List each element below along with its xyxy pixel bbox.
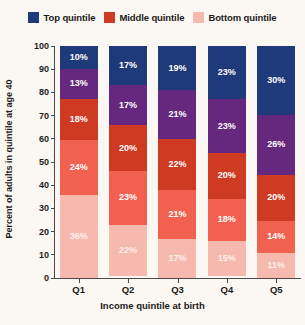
chart-legend: Top quintile Middle quintile Bottom quin… xyxy=(0,12,305,23)
bar-column-q3[interactable]: 19%21%22%21%17% xyxy=(158,46,196,278)
bar-column-q1[interactable]: 10%13%18%24%36% xyxy=(60,46,98,278)
bar-segment[interactable]: 23% xyxy=(208,99,246,152)
y-axis-tick-label: 20 xyxy=(27,227,49,237)
x-axis-tick-label-q2: Q2 xyxy=(109,284,147,295)
bar-column-q5[interactable]: 30%26%20%14%11% xyxy=(257,46,295,278)
x-axis-tick-label-q1: Q1 xyxy=(60,284,98,295)
bar-segment[interactable]: 23% xyxy=(109,171,147,224)
legend-swatch-middle-quintile xyxy=(104,12,115,23)
bar-segment[interactable]: 14% xyxy=(257,221,295,253)
bar-segment[interactable]: 15% xyxy=(208,241,246,276)
x-axis-tick-mark xyxy=(276,279,277,283)
y-axis-tick: 0 xyxy=(27,273,54,283)
y-axis-tick: 50 xyxy=(27,157,54,167)
y-axis-title: Percent of adults in quintile at age 40 xyxy=(2,40,16,278)
legend-label-middle-quintile: Middle quintile xyxy=(119,12,184,23)
bar-segment-label: 20% xyxy=(267,193,285,202)
y-axis-tick: 40 xyxy=(27,180,54,190)
y-axis-tick-label: 30 xyxy=(27,203,49,213)
bar-column-q4[interactable]: 23%23%20%18%15% xyxy=(208,46,246,278)
legend-item-top-quintile: Top quintile xyxy=(28,12,95,23)
bar-segment[interactable]: 18% xyxy=(208,199,246,241)
bar-segment-label: 14% xyxy=(267,232,285,241)
bar-segment[interactable]: 21% xyxy=(158,90,196,139)
chart-figure: Top quintile Middle quintile Bottom quin… xyxy=(0,0,305,325)
x-axis-tick-mark xyxy=(178,279,179,283)
bar-segment-label: 26% xyxy=(267,140,285,149)
bar-segment[interactable]: 22% xyxy=(109,225,147,276)
bar-segment[interactable]: 20% xyxy=(208,153,246,199)
legend-swatch-bottom-quintile xyxy=(193,12,204,23)
bar-segment[interactable]: 30% xyxy=(257,46,295,115)
x-axis-tick-label-q5: Q5 xyxy=(257,284,295,295)
y-axis-tick: 10 xyxy=(27,250,54,260)
x-axis-tick-mark xyxy=(128,279,129,283)
y-axis-tick-label: 40 xyxy=(27,180,49,190)
x-axis-tick-mark xyxy=(227,279,228,283)
bar-segment-label: 23% xyxy=(119,193,137,202)
legend-label-bottom-quintile: Bottom quintile xyxy=(208,12,276,23)
legend-label-top-quintile: Top quintile xyxy=(43,12,95,23)
bar-column-q2[interactable]: 17%17%20%23%22% xyxy=(109,46,147,278)
bar-segment[interactable]: 36% xyxy=(60,195,98,278)
legend-swatch-top-quintile xyxy=(28,12,39,23)
bar-segment-label: 30% xyxy=(267,76,285,85)
x-axis-tick-label-q3: Q3 xyxy=(158,284,196,295)
y-axis-tick-label: 10 xyxy=(27,250,49,260)
bar-segment-label: 10% xyxy=(70,53,88,62)
bar-segment[interactable]: 17% xyxy=(109,46,147,85)
bar-segment-label: 23% xyxy=(218,68,236,77)
bar-segment-label: 21% xyxy=(168,110,186,119)
bar-segment[interactable]: 20% xyxy=(257,175,295,221)
bar-segment-label: 20% xyxy=(218,171,236,180)
bar-segment[interactable]: 19% xyxy=(158,46,196,90)
bar-segment-label: 24% xyxy=(70,163,88,172)
bar-segment-label: 22% xyxy=(168,160,186,169)
legend-item-bottom-quintile: Bottom quintile xyxy=(193,12,276,23)
bar-segment[interactable]: 24% xyxy=(60,140,98,195)
x-axis-tick-labels: Q1Q2Q3Q4Q5 xyxy=(54,284,301,295)
y-axis-tick-label: 80 xyxy=(27,87,49,97)
y-axis-tick: 30 xyxy=(27,203,54,213)
bar-segment-label: 36% xyxy=(70,232,88,241)
bar-segment-label: 18% xyxy=(218,215,236,224)
x-axis-title: Income quintile at birth xyxy=(0,300,305,311)
bar-segment[interactable]: 23% xyxy=(208,46,246,99)
y-axis-tick-label: 90 xyxy=(27,64,49,74)
bar-segment-label: 17% xyxy=(119,61,137,70)
x-axis-tick-label-q4: Q4 xyxy=(208,284,246,295)
bar-segment-label: 17% xyxy=(119,101,137,110)
bar-segment-label: 23% xyxy=(218,122,236,131)
bar-segment[interactable]: 13% xyxy=(60,69,98,99)
bar-segment-label: 20% xyxy=(119,144,137,153)
legend-item-middle-quintile: Middle quintile xyxy=(104,12,184,23)
bar-segment[interactable]: 18% xyxy=(60,99,98,140)
x-axis-tick-mark xyxy=(79,279,80,283)
y-axis-tick: 90 xyxy=(27,64,54,74)
bar-segment[interactable]: 10% xyxy=(60,46,98,69)
bar-segment[interactable]: 11% xyxy=(257,253,295,278)
y-axis-tick-label: 70 xyxy=(27,111,49,121)
bar-segment[interactable]: 21% xyxy=(158,190,196,239)
y-axis-tick: 70 xyxy=(27,111,54,121)
bar-segment-label: 18% xyxy=(70,115,88,124)
bar-segment-label: 11% xyxy=(267,261,285,270)
y-axis-tick: 100 xyxy=(27,41,54,51)
bar-segment-label: 22% xyxy=(119,246,137,255)
y-axis-tick: 20 xyxy=(27,227,54,237)
bar-segment[interactable]: 17% xyxy=(109,85,147,124)
y-axis-tick-label: 50 xyxy=(27,157,49,167)
bar-group: 10%13%18%24%36%17%17%20%23%22%19%21%22%2… xyxy=(54,46,301,278)
y-axis-tick-label: 60 xyxy=(27,134,49,144)
y-axis-title-text: Percent of adults in quintile at age 40 xyxy=(4,79,14,238)
bar-segment[interactable]: 26% xyxy=(257,115,295,175)
bar-segment[interactable]: 17% xyxy=(158,239,196,278)
y-axis-tick: 80 xyxy=(27,87,54,97)
bar-segment-label: 15% xyxy=(218,254,236,263)
bar-segment-label: 13% xyxy=(70,79,88,88)
y-axis-tick-label: 0 xyxy=(27,273,49,283)
bar-segment[interactable]: 22% xyxy=(158,139,196,190)
y-axis-tick-label: 100 xyxy=(27,41,49,51)
bar-segment-label: 17% xyxy=(168,254,186,263)
bar-segment[interactable]: 20% xyxy=(109,125,147,171)
